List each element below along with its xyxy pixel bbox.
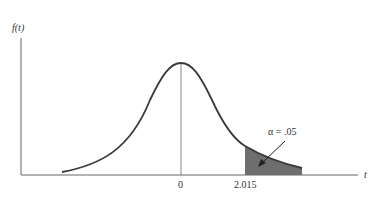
density-curve [62,63,302,172]
tick-label-zero: 0 [178,179,183,190]
tick-label-critical: 2.015 [234,179,257,190]
alpha-annotation: α = .05 [268,126,296,137]
y-axis-label: f(t) [12,22,24,33]
t-distribution-chart [0,0,384,202]
x-axis-label: t [364,169,367,180]
